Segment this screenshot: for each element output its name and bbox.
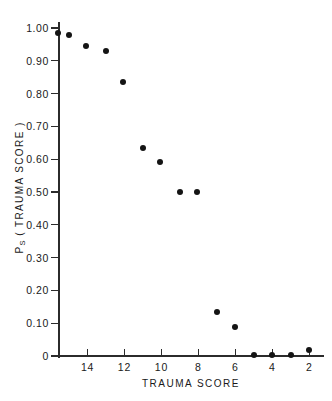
y-axis-tick: [51, 93, 58, 94]
data-point: [103, 48, 109, 54]
data-point: [269, 352, 275, 358]
y-axis-tick-label: 0.90: [3, 56, 49, 67]
x-axis-tick-label: 6: [222, 362, 248, 373]
data-point: [214, 309, 220, 315]
y-axis-tick-label: 0: [3, 351, 49, 362]
x-axis-tick-label: 4: [259, 362, 285, 373]
y-axis-tick: [51, 60, 58, 61]
y-axis-tick: [51, 323, 58, 324]
y-axis-tick-label: 0.60: [3, 154, 49, 165]
y-axis-tick-label: 0.30: [3, 253, 49, 264]
y-axis-tick: [51, 257, 58, 258]
data-point: [251, 352, 257, 358]
y-axis-tick: [51, 290, 58, 291]
y-axis-tick-label: 0.70: [3, 121, 49, 132]
x-axis-tick-label: 14: [75, 362, 101, 373]
x-axis-tick-label: 2: [296, 362, 322, 373]
data-point: [194, 189, 200, 195]
data-point: [306, 347, 312, 353]
x-axis-tick-label: 10: [148, 362, 174, 373]
y-axis-tick-label: 0.20: [3, 285, 49, 296]
y-axis-title-subscript: S: [18, 240, 27, 246]
x-axis-tick-label: 12: [112, 362, 138, 373]
y-axis-tick: [51, 191, 58, 192]
data-point: [232, 324, 238, 330]
y-axis-tick: [51, 355, 58, 356]
data-point: [55, 30, 61, 36]
y-axis-tick: [51, 159, 58, 160]
data-point: [120, 79, 126, 85]
y-axis-title-rest: ( TRAUMA SCORE ): [14, 121, 25, 240]
y-axis-tick: [51, 27, 58, 28]
data-point: [177, 189, 183, 195]
plot-area: [58, 28, 324, 356]
data-point: [140, 145, 146, 151]
y-axis-tick-label: 1.00: [3, 23, 49, 34]
data-point: [288, 352, 294, 358]
data-point: [157, 159, 163, 165]
y-axis-tick-labels: 00.100.200.300.400.500.600.700.800.901.0…: [0, 0, 49, 401]
y-axis-tick-label: 0.10: [3, 318, 49, 329]
x-axis-tick-label: 8: [185, 362, 211, 373]
y-axis-title: PS ( TRAUMA SCORE ): [14, 83, 25, 293]
y-axis-tick: [51, 126, 58, 127]
scatter-plot-figure: 00.100.200.300.400.500.600.700.800.901.0…: [0, 0, 332, 401]
y-axis-tick-label: 0.80: [3, 89, 49, 100]
data-point: [66, 32, 72, 38]
y-axis-tick: [51, 224, 58, 225]
data-point: [83, 43, 89, 49]
y-axis-title-base: P: [14, 246, 25, 254]
y-axis-tick-label: 0.40: [3, 220, 49, 231]
x-axis-title: TRAUMA SCORE: [58, 378, 324, 389]
y-axis-tick-label: 0.50: [3, 187, 49, 198]
